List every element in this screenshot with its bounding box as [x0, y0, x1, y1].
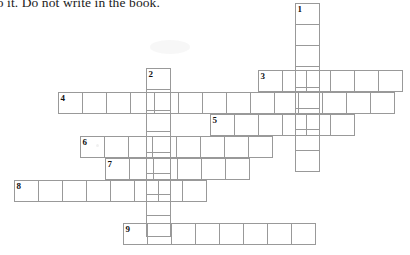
- grid-cell[interactable]: [154, 92, 179, 114]
- grid-cell[interactable]: [82, 92, 107, 114]
- grid-cell[interactable]: [250, 92, 275, 114]
- grid-cell[interactable]: [378, 70, 403, 92]
- grid-cell[interactable]: [225, 158, 250, 180]
- word-entry-9-across[interactable]: 9: [123, 223, 315, 244]
- grid-cell[interactable]: 6: [80, 136, 105, 158]
- grid-cell[interactable]: [153, 158, 178, 180]
- grid-cell[interactable]: [147, 223, 172, 245]
- grid-cell[interactable]: [322, 92, 347, 114]
- grid-cell[interactable]: [195, 223, 220, 245]
- word-entry-6-across[interactable]: 6: [80, 136, 272, 157]
- grid-cell[interactable]: [224, 136, 249, 158]
- grid-cell[interactable]: [152, 136, 177, 158]
- grid-cell[interactable]: [291, 223, 316, 245]
- grid-cell[interactable]: [182, 180, 207, 202]
- crossword-worksheet-page: nto it. Do not write in the book. 123456…: [0, 0, 410, 255]
- grid-cell[interactable]: [330, 114, 355, 136]
- word-entry-8-across[interactable]: 8: [14, 180, 206, 201]
- grid-cell[interactable]: [171, 223, 196, 245]
- grid-cell[interactable]: [295, 150, 320, 172]
- grid-cell[interactable]: [86, 180, 111, 202]
- grid-cell[interactable]: 9: [123, 223, 148, 245]
- clue-number: 4: [61, 93, 66, 103]
- grid-cell[interactable]: [346, 92, 371, 114]
- grid-cell[interactable]: 1: [295, 3, 320, 25]
- grid-cell[interactable]: [134, 180, 159, 202]
- grid-cell[interactable]: [106, 92, 131, 114]
- grid-cell[interactable]: [267, 223, 292, 245]
- grid-cell[interactable]: [306, 114, 331, 136]
- clue-number: 8: [17, 181, 22, 191]
- grid-cell[interactable]: [248, 136, 273, 158]
- clue-number: 1: [298, 4, 303, 14]
- grid-cell[interactable]: 2: [146, 68, 171, 90]
- grid-cell[interactable]: [177, 158, 202, 180]
- word-entry-5-across[interactable]: 5: [210, 114, 354, 135]
- grid-cell[interactable]: [282, 114, 307, 136]
- grid-cell[interactable]: [201, 158, 226, 180]
- clue-number: 7: [108, 159, 113, 169]
- grid-cell[interactable]: 8: [14, 180, 39, 202]
- word-entry-3-across[interactable]: 3: [258, 70, 402, 91]
- grid-cell[interactable]: [354, 70, 379, 92]
- grid-cell[interactable]: [219, 223, 244, 245]
- grid-cell[interactable]: [178, 92, 203, 114]
- clue-number: 3: [261, 71, 266, 81]
- grid-cell[interactable]: [295, 24, 320, 46]
- grid-cell[interactable]: [274, 92, 299, 114]
- grid-cell[interactable]: [243, 223, 268, 245]
- grid-cell[interactable]: [176, 136, 201, 158]
- grid-cell[interactable]: [306, 70, 331, 92]
- clue-number: 5: [213, 115, 218, 125]
- grid-cell[interactable]: [370, 92, 395, 114]
- grid-cell[interactable]: [62, 180, 87, 202]
- grid-cell[interactable]: [110, 180, 135, 202]
- grid-cell[interactable]: [330, 70, 355, 92]
- grid-cell[interactable]: [234, 114, 259, 136]
- grid-cell[interactable]: [295, 45, 320, 67]
- clue-number: 2: [149, 69, 154, 79]
- grid-cell[interactable]: [282, 70, 307, 92]
- grid-cell[interactable]: [129, 158, 154, 180]
- grid-cell[interactable]: [128, 136, 153, 158]
- word-entry-4-across[interactable]: 4: [58, 92, 394, 113]
- grid-cell[interactable]: 4: [58, 92, 83, 114]
- clue-number: 9: [126, 224, 131, 234]
- grid-cell[interactable]: [38, 180, 63, 202]
- crossword-grid[interactable]: 123456789: [0, 0, 410, 255]
- grid-cell[interactable]: [226, 92, 251, 114]
- grid-cell[interactable]: [258, 114, 283, 136]
- clue-number: 6: [83, 137, 88, 147]
- grid-cell[interactable]: [104, 136, 129, 158]
- grid-cell[interactable]: [200, 136, 225, 158]
- grid-cell[interactable]: [130, 92, 155, 114]
- grid-cell[interactable]: 7: [105, 158, 130, 180]
- word-entry-7-across[interactable]: 7: [105, 158, 249, 179]
- grid-cell[interactable]: [298, 92, 323, 114]
- grid-cell[interactable]: 5: [210, 114, 235, 136]
- grid-cell[interactable]: [158, 180, 183, 202]
- grid-cell[interactable]: [202, 92, 227, 114]
- grid-cell[interactable]: 3: [258, 70, 283, 92]
